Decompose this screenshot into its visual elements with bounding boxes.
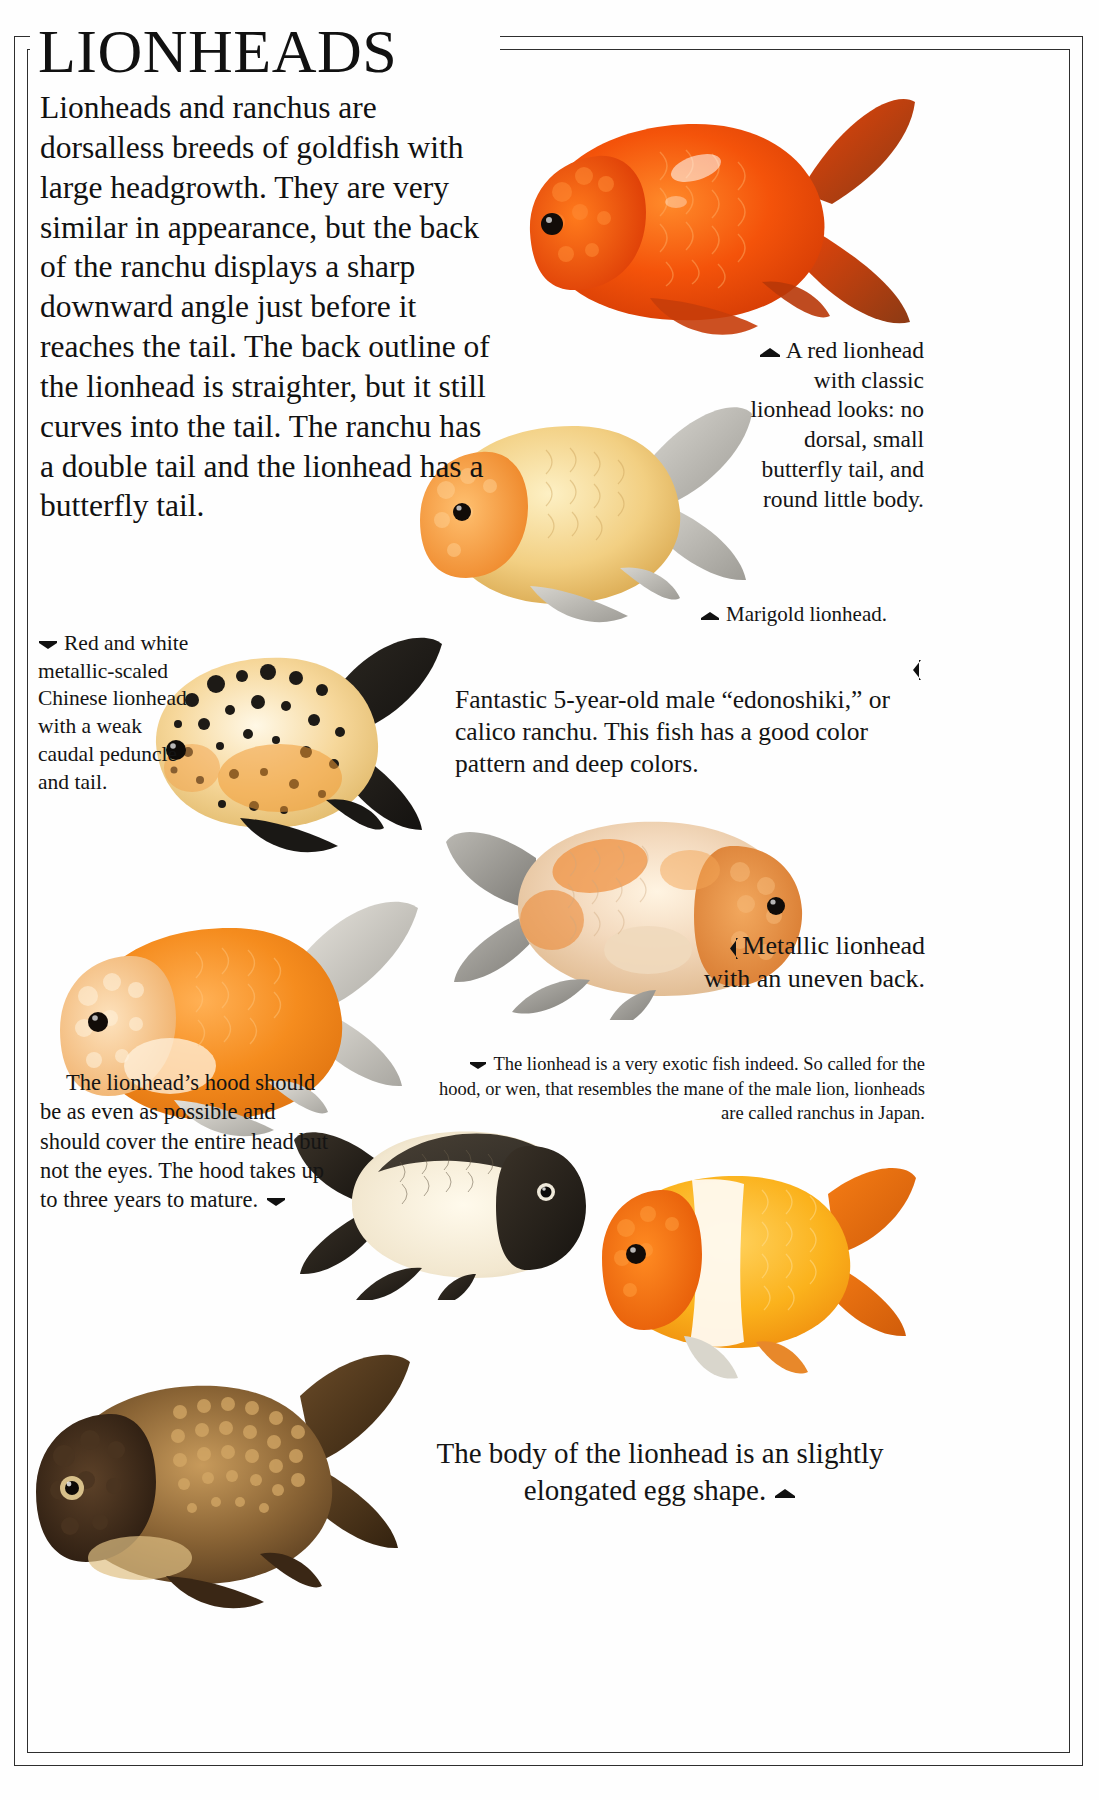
caption-marigold-text: Marigold lionhead. [726,602,887,626]
caption-hood: The lionhead’s hood should be as even as… [40,1068,340,1214]
caption-body-shape: The body of the lionhead is an slightly … [380,1435,940,1509]
red-lionhead-photo [500,72,920,362]
right-triangle-pointer-icon [266,1196,286,1208]
right-triangle-pointer-icon [469,1060,487,1071]
caption-red-lionhead-text: A red lionhead with classic lionhead loo… [750,337,924,512]
caption-metallic-lionhead: Metallic lionhead with an uneven back. [700,930,925,996]
intro-paragraph: Lionheads and ranchus are dorsalless bre… [40,88,500,526]
orange-white-lionhead-photo [580,1150,920,1380]
caption-chinese-lionhead: Red and white metallic-scaled Chinese li… [38,630,190,796]
caption-exotic-note-text: The lionhead is a very exotic fish indee… [439,1054,925,1123]
caption-calico-ranchu: Fantastic 5-year-old male “edonoshiki,” … [455,652,925,780]
caption-marigold: Marigold lionhead. [700,602,930,627]
left-triangle-pointer-icon [727,937,740,960]
left-triangle-pointer-icon [700,610,720,622]
caption-chinese-lionhead-text: Red and white metallic-scaled Chinese li… [38,631,188,794]
page-title: LIONHEADS [38,20,397,82]
caption-red-lionhead: A red lionhead with classic lionhead loo… [746,336,924,514]
left-triangle-pointer-icon [759,346,781,359]
bronze-lionhead-photo [20,1340,420,1620]
up-triangle-pointer-icon [774,1487,796,1500]
book-page: LIONHEADS Lionheads and ranchus are dors… [0,0,1099,1800]
caption-exotic-note: The lionhead is a very exotic fish indee… [430,1052,925,1126]
caption-body-shape-text: The body of the lionhead is an slightly … [436,1437,883,1506]
caption-hood-text: The lionhead’s hood should be as even as… [40,1070,328,1212]
left-triangle-pointer-icon [910,659,923,681]
right-triangle-pointer-icon [38,639,58,651]
caption-calico-ranchu-text: Fantastic 5-year-old male “edonoshiki,” … [455,685,890,778]
